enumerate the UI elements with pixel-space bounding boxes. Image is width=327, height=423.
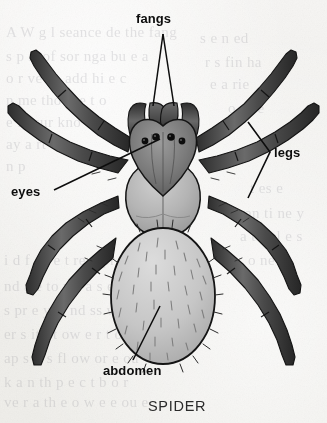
label-eyes: eyes bbox=[11, 184, 40, 199]
figure-caption: SPIDER bbox=[148, 398, 206, 414]
eye-4 bbox=[179, 138, 186, 145]
label-legs: legs bbox=[274, 145, 300, 160]
leader-fangs-right bbox=[163, 34, 174, 106]
leader-fangs-left bbox=[153, 34, 163, 106]
label-fangs: fangs bbox=[136, 11, 171, 26]
abdomen bbox=[111, 228, 215, 364]
label-abdomen: abdomen bbox=[103, 363, 161, 378]
eye-3 bbox=[167, 133, 175, 141]
legs-right-group bbox=[196, 50, 319, 365]
eye-1 bbox=[142, 138, 149, 145]
spider-illustration bbox=[0, 0, 327, 423]
legs-left-group bbox=[8, 50, 131, 365]
figure-container: A W g l seance de the fangs p rt of sor … bbox=[0, 0, 327, 423]
